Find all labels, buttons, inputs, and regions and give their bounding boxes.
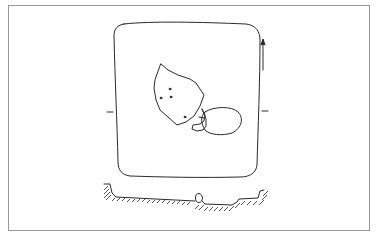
grave-pit-outline	[114, 22, 260, 177]
north-arrow-icon	[261, 39, 265, 70]
stone-oval	[202, 108, 242, 135]
stone-large	[154, 64, 204, 125]
cross-section	[104, 184, 264, 205]
grave-drawing	[0, 0, 376, 235]
